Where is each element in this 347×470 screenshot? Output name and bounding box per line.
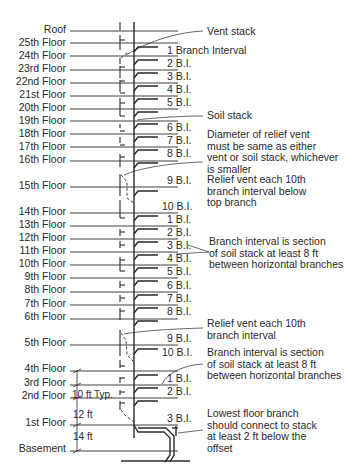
callout-branch-interval-1: Branch interval is section of soil stack… <box>209 236 343 271</box>
floor-label-3: 3rd Floor <box>0 376 66 388</box>
bi-label: 4 B.I. <box>167 83 192 95</box>
bi-label: 9 B.I. <box>167 174 192 186</box>
bi-label: 3 B.I. <box>167 70 192 82</box>
bi-label: 4 B.I. <box>167 252 192 264</box>
horizontal-branches <box>134 47 158 406</box>
floor-label-basement: Basement <box>0 442 66 454</box>
floor-label-21: 21st Floor <box>0 88 66 100</box>
bi-label: 7 B.I. <box>167 292 192 304</box>
bi-label: 6 B.I. <box>167 121 192 133</box>
floor-label-16: 16th Floor <box>0 153 66 165</box>
bi-label: 7 B.I. <box>167 134 192 146</box>
floor-label-22: 22nd Floor <box>0 75 66 87</box>
bi-label: 1 Branch Interval <box>167 44 246 56</box>
floor-label-1: 1st Floor <box>0 416 66 428</box>
bi-label: 6 B.I. <box>167 279 192 291</box>
callout-lowest-floor: Lowest floor branch should connect to st… <box>207 408 317 454</box>
dim-basement: 14 ft <box>73 431 92 443</box>
bi-label: 3 B.I. <box>167 412 192 424</box>
bi-label: 1 B.I. <box>167 372 192 384</box>
floor-label-6: 6th Floor <box>0 310 66 322</box>
floor-label-18: 18th Floor <box>0 127 66 139</box>
callout-relief-vent-below-top: Relief vent each 10th branch interval be… <box>207 174 306 209</box>
floor-lines <box>70 31 178 451</box>
bi-label: 5 B.I. <box>167 265 192 277</box>
bi-label: 2 B.I. <box>167 226 192 238</box>
floor-label-24: 24th Floor <box>0 49 66 61</box>
floor-label-23: 23rd Floor <box>0 62 66 74</box>
bi-label: 8 B.I. <box>167 147 192 159</box>
vent-stack-pipe <box>120 22 125 410</box>
bi-label: 2 B.I. <box>167 385 192 397</box>
floor-label-4: 4th Floor <box>0 362 66 374</box>
callout-branch-interval-2: Branch interval is section of soil stack… <box>207 347 341 382</box>
bi-label: 9 B.I. <box>167 332 192 344</box>
floor-label-11: 11th Floor <box>0 244 66 256</box>
floor-label-14: 14th Floor <box>0 205 66 217</box>
bi-label: 8 B.I. <box>167 305 192 317</box>
floor-label-20: 20th Floor <box>0 101 66 113</box>
bi-label: 10 B.I. <box>162 346 192 358</box>
floor-label-5: 5th Floor <box>0 336 66 348</box>
floor-label-19: 19th Floor <box>0 114 66 126</box>
bi-label: 2 B.I. <box>167 57 192 69</box>
callout-vent-stack: Vent stack <box>207 26 255 38</box>
floor-label-10: 10th Floor <box>0 257 66 269</box>
bi-label: 5 B.I. <box>167 96 192 108</box>
floor-label-2: 2nd Floor <box>0 389 66 401</box>
callout-relief-vent-diameter: Diameter of relief vent must be same as … <box>207 129 338 175</box>
bi-label: 3 B.I. <box>167 239 192 251</box>
callout-soil-stack: Soil stack <box>207 110 252 122</box>
bi-label: 10 B.I. <box>162 200 192 212</box>
floor-label-25: 25th Floor <box>0 36 66 48</box>
stack-offset <box>134 425 178 462</box>
dim-typical: 10 ft Typ. <box>72 389 113 401</box>
floor-label-9: 9th Floor <box>0 270 66 282</box>
floor-label-roof: Roof <box>0 23 66 35</box>
floor-label-8: 8th Floor <box>0 283 66 295</box>
floor-label-12: 12th Floor <box>0 231 66 243</box>
floor-label-13: 13th Floor <box>0 218 66 230</box>
floor-label-17: 17th Floor <box>0 140 66 152</box>
bi-label: 1 B.I. <box>167 213 192 225</box>
floor-label-7: 7th Floor <box>0 297 66 309</box>
callout-relief-vent-each: Relief vent each 10th branch interval <box>207 318 306 341</box>
floor-label-15: 15th Floor <box>0 179 66 191</box>
dim-first-floor: 12 ft <box>73 409 92 421</box>
